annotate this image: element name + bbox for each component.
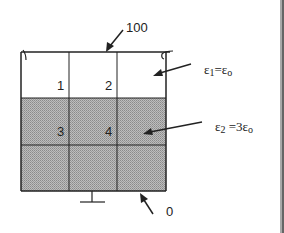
eps1-arrow [160,64,191,73]
eps1-arrow-head [153,69,163,76]
top-potential-label: 100 [126,21,148,34]
node-label-1: 1 [57,79,64,92]
upper-permittivity-label: ε1=εo [204,63,232,78]
bottom-arrow [144,200,153,214]
node-label-3: 3 [57,125,64,138]
lower-permittivity-label: ε2 =3εo [215,120,253,135]
dielectric-grid-diagram: 100 0 1 2 3 4 ε1=εo ε2 =3εo [0,0,284,233]
bottom-arrow-head [140,193,148,203]
node-label-4: 4 [105,125,112,138]
node-label-2: 2 [105,79,112,92]
bottom-potential-label: 0 [166,205,173,218]
top-arrow [110,30,123,46]
